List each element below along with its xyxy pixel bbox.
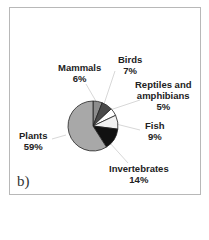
label-fish-pct: 9%: [145, 131, 165, 142]
label-reptiles: Reptiles and amphibians 5%: [135, 79, 192, 112]
label-mammals-pct: 6%: [58, 73, 101, 84]
label-invertebrates: Invertebrates 14%: [109, 163, 169, 185]
label-reptiles-name2: amphibians: [135, 90, 192, 101]
label-plants-name: Plants: [19, 130, 48, 141]
panel-label: b): [17, 173, 30, 190]
label-mammals: Mammals 6%: [58, 62, 101, 84]
label-reptiles-pct: 5%: [135, 101, 192, 112]
label-mammals-name: Mammals: [58, 62, 101, 73]
pie-slices: [68, 101, 118, 151]
label-invertebrates-name: Invertebrates: [109, 163, 169, 174]
label-fish: Fish 9%: [145, 120, 165, 142]
label-fish-name: Fish: [145, 120, 165, 131]
label-plants: Plants 59%: [19, 130, 48, 152]
label-invertebrates-pct: 14%: [109, 174, 169, 185]
label-birds: Birds 7%: [118, 54, 142, 76]
label-reptiles-name1: Reptiles and: [135, 79, 192, 90]
label-birds-pct: 7%: [118, 65, 142, 76]
label-birds-name: Birds: [118, 54, 142, 65]
label-plants-pct: 59%: [19, 141, 48, 152]
